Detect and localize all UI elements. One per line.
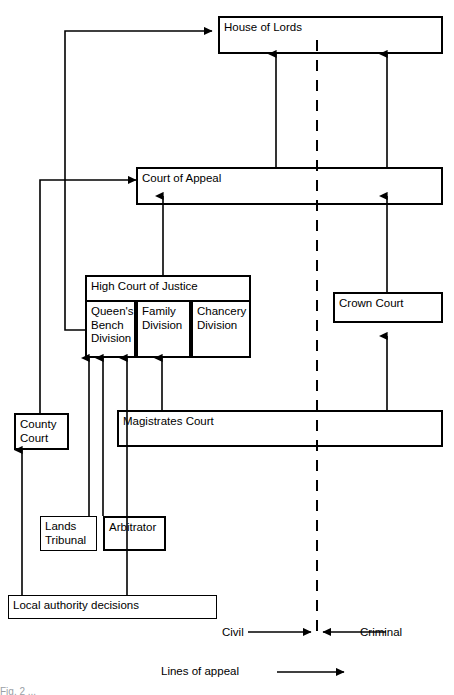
footer-caption: Fig. 2 ... [0,686,120,695]
civil-label: Civil [222,626,244,639]
node-family-division-label: Family Division [142,305,185,332]
node-magistrates-court-label: Magistrates Court [123,415,437,429]
node-chancery-division[interactable]: Chancery Division [191,300,251,358]
criminal-label: Criminal [360,626,402,639]
legend-label: Lines of appeal [161,665,239,678]
node-magistrates-court[interactable]: Magistrates Court [117,410,443,447]
node-house-of-lords-label: House of Lords [224,21,437,35]
node-lands-tribunal-label: Lands Tribunal [45,520,92,547]
node-lands-tribunal[interactable]: Lands Tribunal [40,516,97,551]
node-family-division[interactable]: Family Division [136,300,191,358]
node-county-court[interactable]: County Court [14,413,69,450]
node-chancery-division-label: Chancery Division [197,305,245,332]
node-crown-court[interactable]: Crown Court [333,292,443,323]
node-local-authority-decisions[interactable]: Local authority decisions [8,595,217,619]
node-crown-court-label: Crown Court [339,297,437,311]
node-court-of-appeal[interactable]: Court of Appeal [136,167,443,205]
node-arbitrator[interactable]: Arbitrator [103,516,166,551]
node-local-authority-decisions-label: Local authority decisions [13,599,212,613]
node-high-court-of-justice[interactable]: High Court of Justice [85,275,251,300]
node-house-of-lords[interactable]: House of Lords [218,16,443,54]
node-queens-bench-division[interactable]: Queen's Bench Division [85,300,136,358]
node-high-court-of-justice-label: High Court of Justice [91,280,245,294]
node-arbitrator-label: Arbitrator [109,521,160,535]
node-queens-bench-division-label: Queen's Bench Division [91,305,130,346]
node-county-court-label: County Court [20,418,63,445]
court-hierarchy-diagram: House of Lords Court of Appeal High Cour… [0,0,454,695]
node-court-of-appeal-label: Court of Appeal [142,172,437,186]
